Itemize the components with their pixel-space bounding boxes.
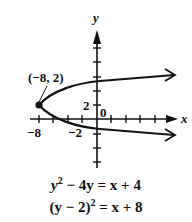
origin-label: 0 xyxy=(100,105,107,120)
equation-expanded: y2 − 4y = x + 4 xyxy=(0,175,192,194)
y-axis-arrow-icon xyxy=(93,30,101,44)
eq1-rest: − 4y = x + 4 xyxy=(63,177,141,193)
eq2-base: (y − 2) xyxy=(49,199,90,215)
eq2-rest: = x + 8 xyxy=(95,199,142,215)
vertex-point xyxy=(35,101,42,108)
parabola-lower-branch xyxy=(39,105,174,135)
x-axis-label: x xyxy=(180,111,188,126)
eq1-base: y xyxy=(51,177,58,193)
y-axis-label: y xyxy=(91,10,99,25)
y-axis xyxy=(93,30,101,168)
equation-vertex-form: (y − 2)2 = x + 8 xyxy=(0,197,192,216)
tick-label-neg8: −8 xyxy=(27,125,41,140)
tick-label-neg2: −2 xyxy=(68,125,82,140)
tick-label-2: 2 xyxy=(83,98,90,113)
x-axis-arrow-icon xyxy=(166,115,178,123)
vertex-label: (−8, 2) xyxy=(28,70,64,85)
